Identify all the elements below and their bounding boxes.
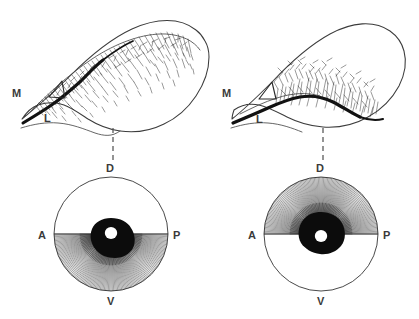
optic-disc-hole-left bbox=[105, 227, 117, 239]
label-ventral-right: V bbox=[317, 295, 325, 307]
label-ventral-left: V bbox=[107, 295, 115, 307]
label-lateral-left: L bbox=[44, 112, 51, 124]
label-medial-left: M bbox=[12, 87, 21, 99]
anatomical-figure: M L M L bbox=[0, 0, 419, 319]
label-posterior-right: P bbox=[383, 229, 391, 241]
label-lateral-right: L bbox=[256, 113, 263, 125]
label-posterior-left: P bbox=[173, 229, 181, 241]
figure-canvas: M L M L bbox=[0, 0, 419, 319]
label-anterior-left: A bbox=[38, 229, 46, 241]
label-dorsal-right: D bbox=[316, 162, 324, 174]
label-dorsal-left: D bbox=[106, 162, 114, 174]
label-anterior-right: A bbox=[248, 229, 256, 241]
optic-disc-hole-right bbox=[315, 230, 327, 242]
label-medial-right: M bbox=[222, 87, 231, 99]
